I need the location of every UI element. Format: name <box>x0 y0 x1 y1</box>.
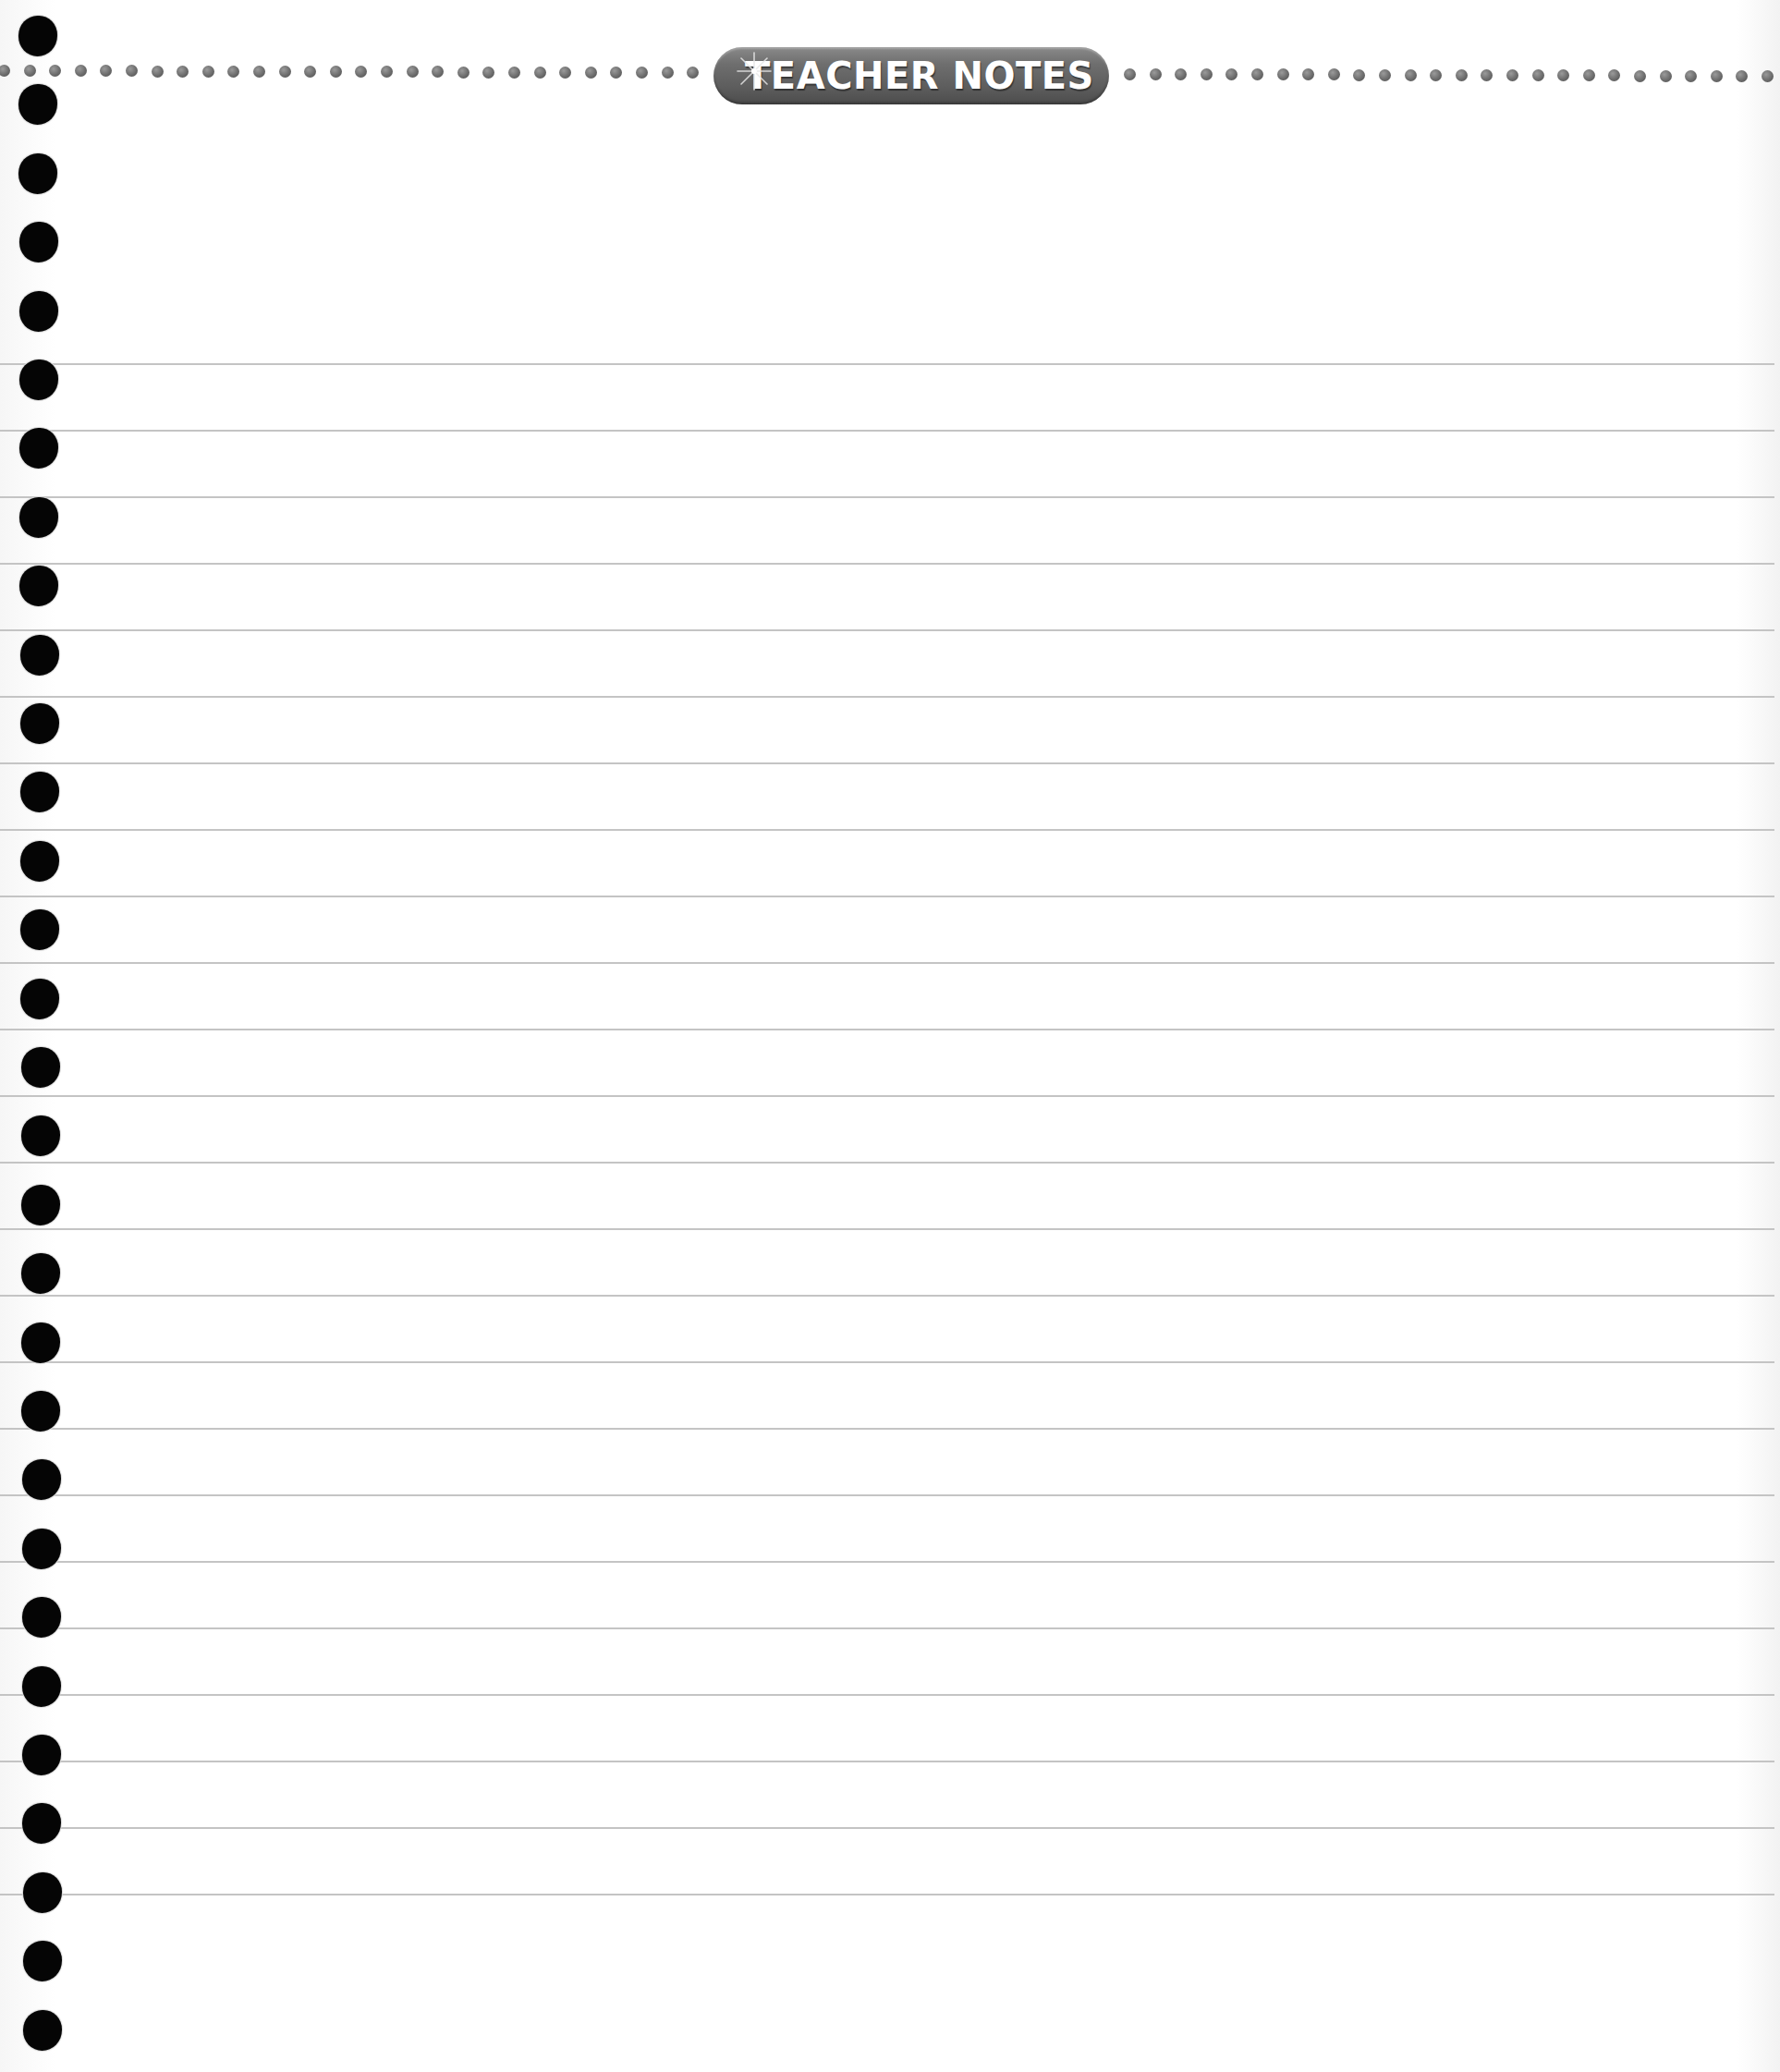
binder-hole <box>21 1322 60 1363</box>
leader-dot <box>585 67 597 79</box>
leader-dot <box>1251 68 1263 80</box>
binder-hole <box>20 979 59 1019</box>
binder-hole <box>19 566 58 606</box>
writing-line <box>0 1494 1774 1496</box>
binder-hole <box>21 1115 60 1156</box>
leader-dot <box>687 67 699 79</box>
leader-dot <box>0 65 10 77</box>
binder-hole <box>21 1047 60 1088</box>
binder-hole <box>20 909 59 950</box>
writing-line <box>0 1361 1774 1363</box>
teacher-notes-banner: TEACHER NOTES <box>713 47 1109 104</box>
writing-line <box>0 1095 1774 1097</box>
writing-line <box>0 696 1774 698</box>
binder-hole <box>18 16 57 56</box>
leader-dot <box>100 65 112 77</box>
writing-line <box>0 1029 1774 1030</box>
writing-line <box>0 563 1774 565</box>
binder-hole <box>21 1253 60 1294</box>
writing-line <box>0 1162 1774 1164</box>
binder-hole <box>22 1735 61 1775</box>
leader-dot <box>1532 69 1544 81</box>
leader-dot <box>1762 70 1774 82</box>
binder-hole <box>23 1872 62 1913</box>
page-title: TEACHER NOTES <box>745 55 1094 97</box>
leader-dot <box>304 66 316 78</box>
writing-line <box>0 1228 1774 1230</box>
leader-dot <box>1736 70 1748 82</box>
leader-dot <box>1557 69 1569 81</box>
writing-line <box>0 829 1774 831</box>
leader-dot <box>75 65 87 77</box>
binder-hole <box>18 84 57 125</box>
leader-dot <box>482 67 494 79</box>
binder-hole <box>19 222 58 262</box>
writing-line <box>0 962 1774 964</box>
binder-hole <box>19 497 58 538</box>
writing-line <box>0 1295 1774 1297</box>
leader-dot <box>1379 69 1391 81</box>
binder-hole <box>22 1459 61 1500</box>
leader-dot <box>1660 70 1672 82</box>
leader-dot <box>1201 68 1213 80</box>
binder-hole <box>20 635 59 676</box>
binder-hole <box>20 841 59 882</box>
leader-dot <box>1225 68 1237 80</box>
writing-line <box>0 629 1774 631</box>
leader-dot <box>227 66 239 78</box>
leader-dot <box>1506 69 1518 81</box>
leader-dot <box>24 65 36 77</box>
teacher-notes-page: TEACHER NOTES <box>0 0 1780 2072</box>
leader-dot <box>1302 68 1314 80</box>
leader-dot <box>534 67 546 79</box>
writing-line <box>0 1694 1774 1696</box>
binder-hole <box>22 1597 61 1638</box>
leader-dot <box>1430 69 1442 81</box>
leader-dot <box>152 66 164 78</box>
sparkle-icon <box>734 51 774 91</box>
writing-line <box>0 1827 1774 1829</box>
leader-dot <box>1328 68 1340 80</box>
leader-dot <box>1150 68 1162 80</box>
leader-dot <box>126 65 138 77</box>
leader-dot <box>636 67 648 79</box>
binder-hole <box>19 428 58 469</box>
writing-line <box>0 1428 1774 1430</box>
leader-dot <box>49 65 61 77</box>
writing-line <box>0 1894 1774 1895</box>
writing-line <box>0 762 1774 764</box>
binder-hole <box>18 153 57 194</box>
leader-dot <box>177 66 189 78</box>
leader-dot <box>1124 68 1136 80</box>
binder-hole <box>23 1941 62 1981</box>
writing-line <box>0 430 1774 432</box>
binder-hole <box>21 1185 60 1225</box>
writing-line <box>0 896 1774 897</box>
binder-hole <box>22 1529 61 1569</box>
leader-dot <box>381 66 393 78</box>
writing-line <box>0 363 1774 365</box>
writing-line <box>0 1761 1774 1762</box>
binder-hole <box>21 1391 60 1432</box>
leader-dot <box>1583 69 1595 81</box>
binder-hole <box>23 2010 62 2051</box>
writing-line <box>0 496 1774 498</box>
leader-dot <box>559 67 571 79</box>
leader-dot <box>253 66 265 78</box>
leader-dot <box>407 66 419 78</box>
writing-line <box>0 1561 1774 1563</box>
leader-dot <box>1685 70 1697 82</box>
leader-dot <box>1277 68 1289 80</box>
leader-dot <box>1175 68 1187 80</box>
leader-dot <box>1353 69 1365 81</box>
leader-dot <box>1608 69 1620 81</box>
leader-dot <box>508 67 520 79</box>
leader-dot <box>1634 70 1646 82</box>
binder-hole <box>22 1666 61 1707</box>
leader-dot <box>1456 69 1468 81</box>
binder-hole <box>19 360 58 400</box>
leader-dot <box>1405 69 1417 81</box>
binder-hole <box>20 703 59 744</box>
leader-dot <box>662 67 674 79</box>
leader-dot <box>457 67 469 79</box>
